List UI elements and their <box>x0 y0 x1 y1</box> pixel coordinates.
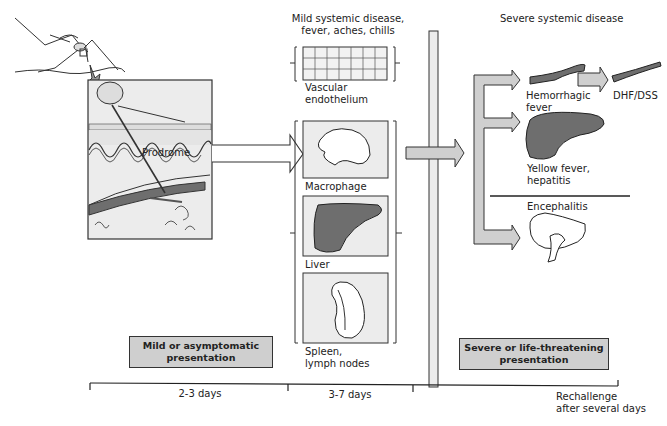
organ-label-line1: Vascular <box>305 82 368 94</box>
organ-label-macrophage: Macrophage <box>305 181 367 193</box>
ruptured-vessel-icon <box>612 62 661 82</box>
organ-label-line2: endothelium <box>305 94 368 106</box>
outcome-dhf-dss: DHF/DSS <box>613 90 658 102</box>
mild-presentation-box: Mild or asymptomatic presentation <box>129 336 273 368</box>
outcome-label-line1: Hemorrhagic <box>526 90 591 102</box>
liver-icon <box>526 112 604 159</box>
timeline-end-line1: Rechallenge <box>556 391 646 403</box>
timeline-segment-1: 2-3 days <box>150 388 250 400</box>
organ-label-line2: lymph nodes <box>305 358 369 370</box>
stage2-title: Mild systemic disease, fever, aches, chi… <box>290 13 406 37</box>
mosquito-icon <box>15 18 125 74</box>
brain-icon <box>530 213 586 262</box>
outcome-label-line2: hepatitis <box>527 175 590 187</box>
mild-presentation-line2: presentation <box>143 352 259 364</box>
timeline-end-label: Rechallenge after several days <box>556 391 646 415</box>
outcome-label-line2: fever <box>526 102 591 114</box>
prodrome-arrow-icon <box>212 135 303 172</box>
skin-cross-section <box>88 80 212 239</box>
organ-label-liver: Liver <box>305 259 330 271</box>
mild-presentation-line1: Mild or asymptomatic <box>143 340 259 352</box>
outcome-hemorrhagic-fever: Hemorrhagic fever <box>526 90 591 114</box>
outcome-label-line1: Yellow fever, <box>527 163 590 175</box>
branching-arrows-icon <box>474 70 520 250</box>
prodrome-label: Prodrome <box>142 147 190 159</box>
outcome-encephalitis: Encephalitis <box>527 201 588 213</box>
severe-presentation-line2: presentation <box>464 354 603 366</box>
stage2-title-line2: fever, aches, chills <box>290 25 406 37</box>
stage2-title-line1: Mild systemic disease, <box>290 13 406 25</box>
blood-vessel-icon <box>530 64 585 84</box>
organ-label-line1: Spleen, <box>305 346 369 358</box>
severe-presentation-line1: Severe or life-threatening <box>464 342 603 354</box>
stage-divider-bar <box>429 31 438 387</box>
timeline-end-line2: after several days <box>556 403 646 415</box>
organ-label-spleen: Spleen, lymph nodes <box>305 346 369 370</box>
organ-label-vascular: Vascular endothelium <box>305 82 368 106</box>
outcome-yellow-fever: Yellow fever, hepatitis <box>527 163 590 187</box>
severe-presentation-box: Severe or life-threatening presentation <box>459 338 609 370</box>
timeline-segment-2: 3-7 days <box>300 389 400 401</box>
stage3-title: Severe systemic disease <box>500 13 623 25</box>
